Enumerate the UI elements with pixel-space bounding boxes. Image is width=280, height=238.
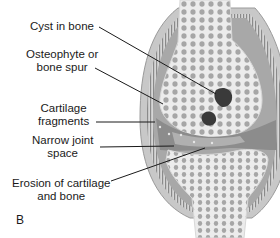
label-cyst-in-bone: Cyst in bone [30,20,94,33]
label-line: bone spur [26,61,98,74]
panel-letter: B [16,213,24,227]
label-line: Cartilage [38,102,89,115]
label-cartilage-fragments: Cartilage fragments [38,102,89,128]
label-line: Narrow joint [32,134,93,147]
label-line: Osteophyte or [26,48,98,61]
label-osteophyte: Osteophyte or bone spur [26,48,98,74]
label-narrow-joint-space: Narrow joint space [32,134,93,160]
label-erosion: Erosion of cartilage and bone [12,177,110,203]
label-line: and bone [12,190,110,203]
label-line: Erosion of cartilage [12,177,110,190]
label-line: Cyst in bone [30,20,94,33]
joint-diagram: Cyst in bone Osteophyte or bone spur Car… [0,0,280,238]
label-line: fragments [38,115,89,128]
label-line: space [32,147,93,160]
